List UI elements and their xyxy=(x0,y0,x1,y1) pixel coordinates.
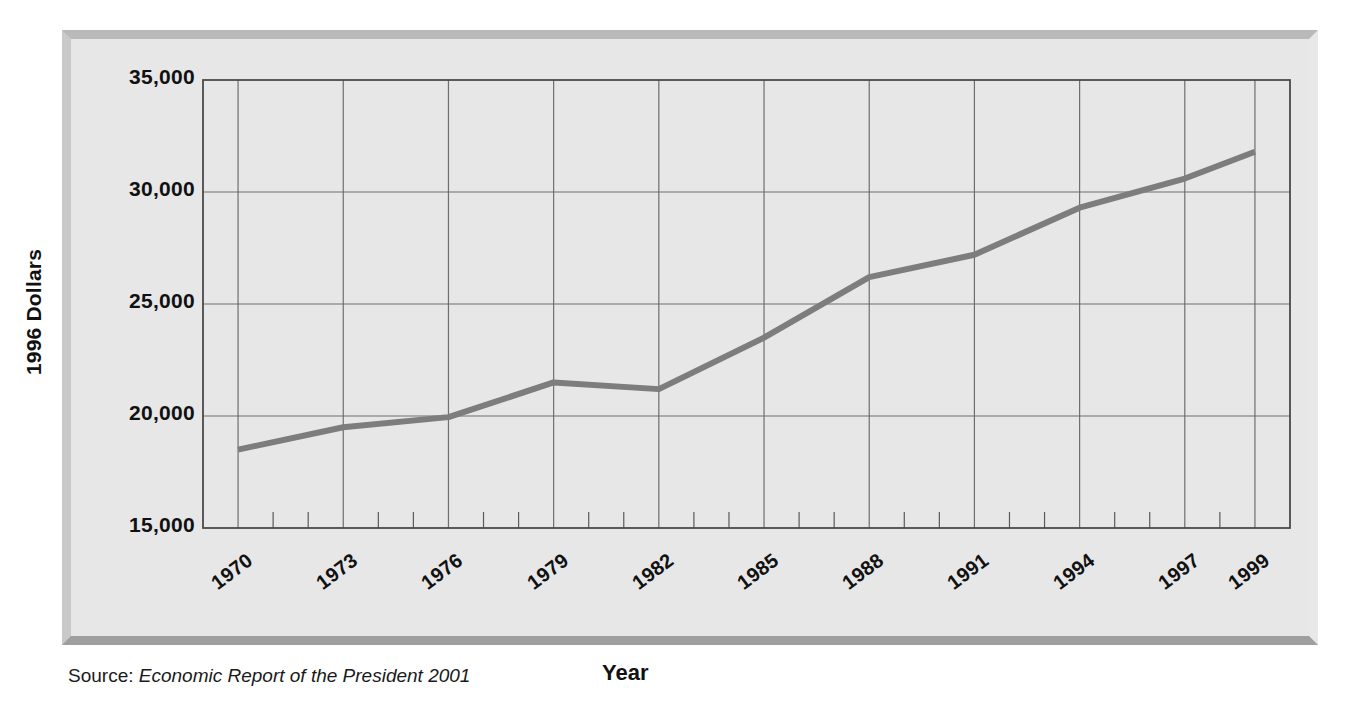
x-axis-tick-label: 1982 xyxy=(628,549,678,595)
source-note: Source: Economic Report of the President… xyxy=(68,665,470,687)
y-axis-title: 1996 Dollars xyxy=(22,202,46,422)
x-axis-tick-label: 1979 xyxy=(523,549,573,595)
x-axis-tick-label: 1991 xyxy=(943,549,993,595)
x-axis-tick-label: 1999 xyxy=(1224,549,1274,595)
x-axis-tick-label: 1970 xyxy=(207,549,257,595)
source-title: Economic Report of the President 2001 xyxy=(139,665,471,686)
x-axis-title: Year xyxy=(602,660,649,686)
x-axis-tick-label: 1988 xyxy=(838,549,888,595)
x-axis-tick-label: 1985 xyxy=(733,549,783,595)
x-axis-tick-labels: 1970197319761979198219851988199119941997… xyxy=(0,0,1345,708)
x-axis-tick-label: 1976 xyxy=(417,549,467,595)
x-axis-tick-label: 1997 xyxy=(1154,549,1204,595)
chart-page: 35,00030,00025,00020,00015,000 197019731… xyxy=(0,0,1345,708)
x-axis-tick-label: 1994 xyxy=(1049,549,1099,595)
x-axis-tick-label: 1973 xyxy=(312,549,362,595)
source-prefix: Source: xyxy=(68,665,133,686)
